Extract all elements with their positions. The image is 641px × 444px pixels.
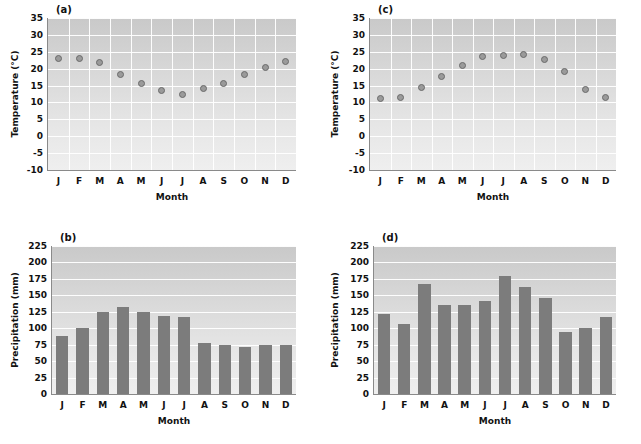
y-axis-tick-label: 50 [0, 357, 47, 366]
gridline-horizontal [52, 279, 296, 280]
x-axis-tick-label: A [110, 177, 131, 186]
bar [97, 312, 110, 394]
gridline-vertical [452, 18, 453, 170]
data-point-marker [200, 85, 207, 92]
gridline-vertical [575, 18, 576, 170]
bar [158, 316, 171, 394]
y-axis-tick-label: 25 [320, 48, 365, 57]
panel-c-y-axis-label: Temperature (°C) [330, 18, 340, 170]
gridline-horizontal [374, 295, 616, 296]
y-axis-tick-label: 225 [320, 242, 369, 251]
data-point-marker [582, 86, 589, 93]
bar [378, 314, 391, 394]
data-point-marker [158, 87, 165, 94]
x-axis-tick-label: J [151, 177, 172, 186]
x-axis-tick-label: M [452, 177, 473, 186]
bar [137, 312, 150, 394]
data-point-marker [117, 71, 124, 78]
y-axis-tick-label: -10 [320, 166, 365, 175]
y-axis-tick-label: 50 [320, 357, 369, 366]
y-axis-tick-label: 25 [0, 48, 43, 57]
gridline-horizontal [52, 262, 296, 263]
gridline-vertical [432, 18, 433, 170]
gridline-horizontal [52, 312, 296, 313]
panel-c-plot-area [370, 18, 616, 170]
x-axis-tick-label: A [193, 177, 214, 186]
data-point-marker [561, 68, 568, 75]
panel-a-x-axis-label: Month [48, 192, 296, 202]
panel-d: (d) Precipitation (mm) Month 22520017515… [320, 222, 640, 444]
panel-a-plot-area [48, 18, 296, 170]
gridline-vertical [213, 18, 214, 170]
panel-b-plot-area [52, 246, 296, 394]
y-axis-tick-label: 225 [0, 242, 47, 251]
y-axis-tick-label: 20 [320, 65, 365, 74]
gridline-vertical [275, 18, 276, 170]
bar [398, 324, 411, 394]
y-axis-tick-label: 0 [0, 132, 43, 141]
x-axis-tick-label: M [89, 177, 110, 186]
y-axis-line [369, 18, 370, 171]
gridline-vertical [110, 18, 111, 170]
panel-d-label: (d) [382, 232, 398, 243]
x-axis-tick-label: M [93, 401, 113, 410]
y-axis-tick-label: 175 [320, 275, 369, 284]
x-axis-line [47, 170, 296, 171]
x-axis-tick-label: A [514, 177, 535, 186]
bar [559, 332, 572, 394]
x-axis-tick-label: J [52, 401, 72, 410]
data-point-marker [459, 62, 466, 69]
y-axis-tick-label: 100 [0, 324, 47, 333]
bar [499, 276, 512, 394]
y-axis-line [373, 246, 374, 395]
y-axis-tick-label: 150 [320, 291, 369, 300]
panel-c-label: (c) [378, 4, 393, 15]
gridline-vertical [193, 18, 194, 170]
y-axis-tick-label: 15 [0, 82, 43, 91]
panel-a: (a) Temperature (°C) Month 3530252015105… [0, 0, 320, 222]
x-axis-tick-label: F [394, 401, 414, 410]
data-point-marker [541, 56, 548, 63]
data-point-marker [418, 84, 425, 91]
bar [539, 298, 552, 394]
panel-d-y-axis-label: Precipitation (mm) [330, 246, 340, 394]
panel-b-x-axis-label: Month [52, 416, 296, 426]
x-axis-tick-label: J [493, 177, 514, 186]
data-point-marker [241, 71, 248, 78]
bar [178, 317, 191, 394]
data-point-marker [500, 52, 507, 59]
data-point-marker [397, 94, 404, 101]
x-axis-tick-label: N [576, 401, 596, 410]
x-axis-line [373, 394, 616, 395]
x-axis-tick-label: J [172, 177, 193, 186]
y-axis-tick-label: 30 [320, 31, 365, 40]
y-axis-tick-label: 175 [0, 275, 47, 284]
x-axis-tick-label: S [215, 401, 235, 410]
y-axis-tick-label: 25 [320, 374, 369, 383]
data-point-marker [96, 59, 103, 66]
y-axis-tick-label: -5 [0, 149, 43, 158]
gridline-vertical [473, 18, 474, 170]
bar [418, 284, 431, 394]
x-axis-tick-label: F [72, 401, 92, 410]
data-point-marker [55, 55, 62, 62]
gridline-horizontal [374, 279, 616, 280]
y-axis-line [51, 246, 52, 395]
gridline-vertical [514, 18, 515, 170]
x-axis-line [369, 170, 616, 171]
y-axis-tick-label: 100 [320, 324, 369, 333]
gridline-vertical [131, 18, 132, 170]
x-axis-tick-label: O [556, 401, 576, 410]
x-axis-tick-label: D [596, 177, 617, 186]
y-axis-line [47, 18, 48, 171]
y-axis-tick-label: 25 [0, 374, 47, 383]
panel-d-x-axis-label: Month [374, 416, 616, 426]
panel-b-y-axis-label: Precipitation (mm) [10, 246, 20, 394]
x-axis-tick-label: S [535, 401, 555, 410]
data-point-marker [479, 53, 486, 60]
x-axis-tick-label: J [374, 401, 394, 410]
x-axis-line [51, 394, 296, 395]
bar [76, 328, 89, 394]
gridline-vertical [391, 18, 392, 170]
bar [239, 347, 252, 394]
